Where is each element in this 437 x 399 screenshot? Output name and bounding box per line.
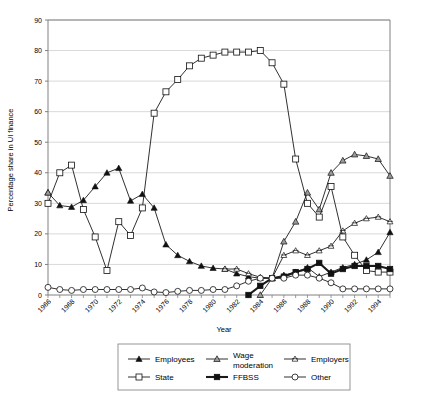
marker-open-square (304, 200, 310, 206)
marker-open-circle (316, 275, 322, 281)
marker-filled-square-bold (246, 292, 251, 297)
chart-legend: EmployeesWagemoderationEmployersStateFFB… (118, 344, 350, 390)
marker-filled-square-bold (214, 374, 219, 379)
marker-open-circle (293, 272, 299, 278)
y-tick-label-10: 10 (34, 261, 42, 268)
marker-open-circle (281, 275, 287, 281)
y-tick-label-70: 70 (34, 78, 42, 85)
marker-open-square (128, 232, 134, 238)
y-tick-label-60: 60 (34, 108, 42, 115)
line-chart: 0102030405060708090 19661968197019721974… (0, 0, 437, 399)
marker-open-circle (340, 286, 346, 292)
marker-open-circle (304, 272, 310, 278)
marker-open-square (198, 55, 204, 61)
y-tick-label-0: 0 (38, 292, 42, 299)
marker-filled-square-bold (317, 260, 322, 265)
marker-open-circle (222, 287, 228, 293)
legend-label: FFBSS (233, 373, 259, 382)
marker-open-square (139, 205, 145, 211)
marker-open-circle (104, 287, 110, 293)
marker-open-circle (375, 286, 381, 292)
marker-open-square (257, 48, 263, 54)
marker-open-circle (139, 285, 145, 291)
marker-open-circle (92, 287, 98, 293)
legend-label: Other (311, 373, 331, 382)
legend-label-cont: moderation (233, 361, 273, 370)
legend-label: State (155, 373, 174, 382)
marker-open-circle (269, 275, 275, 281)
marker-open-circle (151, 289, 157, 295)
marker-open-square (116, 219, 122, 225)
marker-open-square (69, 162, 75, 168)
marker-open-square (57, 170, 63, 176)
legend-label: Employers (311, 355, 349, 364)
chart-container: 0102030405060708090 19661968197019721974… (0, 0, 437, 399)
y-tick-label-40: 40 (34, 169, 42, 176)
marker-open-circle (45, 284, 51, 290)
legend-label: Wage (233, 351, 254, 360)
marker-filled-square-bold (305, 266, 310, 271)
marker-open-square (210, 52, 216, 58)
marker-open-square (163, 89, 169, 95)
marker-open-square (245, 49, 251, 55)
marker-open-circle (198, 287, 204, 293)
x-axis-title: Year (216, 325, 232, 334)
marker-open-circle (80, 287, 86, 293)
marker-open-square (281, 81, 287, 87)
y-tick-label-90: 90 (34, 17, 42, 24)
marker-open-circle (387, 286, 393, 292)
marker-open-square (352, 252, 358, 258)
marker-open-square (187, 63, 193, 69)
marker-open-square (136, 374, 142, 380)
y-axis-title: Percentage share in UI finance (6, 109, 15, 212)
marker-open-circle (352, 286, 358, 292)
marker-filled-square-bold (376, 263, 381, 268)
marker-open-circle (292, 374, 298, 380)
marker-filled-square-bold (328, 271, 333, 276)
marker-open-circle (175, 288, 181, 294)
marker-open-square (328, 184, 334, 190)
y-tick-label-20: 20 (34, 230, 42, 237)
marker-open-circle (187, 287, 193, 293)
marker-filled-square-bold (340, 266, 345, 271)
marker-open-circle (116, 287, 122, 293)
marker-open-square (80, 206, 86, 212)
legend-label: Employees (155, 355, 195, 364)
marker-open-circle (128, 287, 134, 293)
marker-filled-square-bold (352, 263, 357, 268)
y-tick-label-50: 50 (34, 139, 42, 146)
marker-open-circle (210, 287, 216, 293)
marker-open-circle (57, 287, 63, 293)
marker-open-square (45, 200, 51, 206)
marker-open-square (293, 156, 299, 162)
y-tick-label-30: 30 (34, 200, 42, 207)
marker-open-square (375, 269, 381, 275)
y-tick-label-80: 80 (34, 47, 42, 54)
marker-open-circle (328, 280, 334, 286)
marker-open-square (269, 60, 275, 66)
marker-open-square (151, 110, 157, 116)
marker-open-square (222, 49, 228, 55)
chart-background (0, 0, 437, 399)
marker-open-square (104, 268, 110, 274)
marker-open-circle (69, 287, 75, 293)
marker-open-square (316, 214, 322, 220)
marker-open-circle (257, 275, 263, 281)
marker-open-circle (363, 286, 369, 292)
marker-filled-square-bold (387, 266, 392, 271)
marker-open-circle (234, 283, 240, 289)
marker-open-circle (163, 290, 169, 296)
marker-open-square (175, 77, 181, 83)
marker-open-square (92, 234, 98, 240)
marker-filled-square-bold (364, 263, 369, 268)
marker-filled-square-bold (258, 283, 263, 288)
marker-open-circle (245, 278, 251, 284)
marker-open-square (234, 49, 240, 55)
marker-open-square (340, 234, 346, 240)
